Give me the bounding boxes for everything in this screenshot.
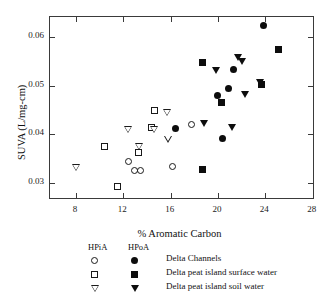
x-tick-top: [171, 17, 172, 22]
legend-row-delta-channels: Delta Channels: [88, 253, 333, 267]
square-open-icon: [91, 270, 98, 280]
square-filled-icon: [131, 270, 138, 280]
data-point-square-filled: [199, 59, 206, 66]
x-axis-title: % Aromatic Carbon: [12, 228, 335, 239]
triangle-down-filled-icon: [131, 284, 139, 294]
y-tick: [50, 183, 55, 184]
data-point-square-filled: [199, 166, 206, 173]
data-point-square-open: [114, 183, 121, 190]
y-tick-right: [308, 134, 313, 135]
legend-row-soil-water: Delta peat island soil water: [88, 281, 333, 295]
x-tick: [123, 193, 124, 198]
x-tick-top: [218, 17, 219, 22]
x-tick-top: [76, 17, 77, 22]
y-tick: [50, 86, 55, 87]
legend-header-hpia: HPiA: [88, 242, 107, 252]
x-tick-label: 20: [204, 204, 230, 214]
y-tick: [50, 134, 55, 135]
data-point-triangle-down-open: [164, 136, 172, 143]
scatter-plot-figure: % Aromatic Carbon SUVA (L/mg-cm) 8121620…: [0, 0, 335, 296]
data-point-square-filled: [218, 99, 225, 106]
data-point-triangle-down-filled: [241, 91, 249, 98]
data-point-square-open: [101, 143, 108, 150]
x-tick-label: 28: [299, 204, 325, 214]
y-tick-label: 0.05: [14, 79, 44, 89]
data-point-circle-filled: [219, 135, 226, 142]
y-tick: [50, 37, 55, 38]
legend-row-surface-water: Delta peat island surface water: [88, 267, 333, 281]
plot-area: [49, 16, 314, 199]
legend-header: HPiA HPoA: [88, 242, 333, 253]
x-tick-top: [313, 17, 314, 22]
data-point-triangle-down-open: [72, 164, 80, 171]
x-tick-label: 24: [251, 204, 277, 214]
data-point-square-open: [151, 107, 158, 114]
y-tick-label: 0.04: [14, 127, 44, 137]
data-point-triangle-down-filled: [238, 58, 246, 65]
legend-label-delta-channels: Delta Channels: [166, 253, 221, 263]
y-tick-right: [308, 37, 313, 38]
circle-filled-icon: [131, 256, 138, 266]
data-point-triangle-down-filled: [256, 79, 264, 86]
x-tick: [313, 193, 314, 198]
data-point-triangle-down-filled: [228, 124, 236, 131]
y-tick-label: 0.06: [14, 30, 44, 40]
data-point-triangle-down-open: [124, 126, 132, 133]
x-tick: [265, 193, 266, 198]
x-tick: [76, 193, 77, 198]
data-point-triangle-down-open: [163, 109, 171, 116]
legend: HPiA HPoA Delta Channels Delta peat isla…: [88, 242, 333, 295]
y-tick-label: 0.03: [14, 176, 44, 186]
y-tick-right: [308, 183, 313, 184]
x-tick-top: [123, 17, 124, 22]
x-tick: [171, 193, 172, 198]
data-point-circle-filled: [230, 66, 237, 73]
x-tick-label: 16: [157, 204, 183, 214]
triangle-down-open-icon: [91, 284, 99, 294]
legend-header-hpoa: HPoA: [128, 242, 149, 252]
y-tick-right: [308, 86, 313, 87]
data-point-triangle-down-open: [135, 143, 143, 150]
data-point-triangle-down-filled: [212, 67, 220, 74]
data-point-triangle-down-open: [150, 126, 158, 133]
x-tick-label: 12: [109, 204, 135, 214]
circle-open-icon: [91, 256, 98, 266]
x-tick-top: [265, 17, 266, 22]
data-point-circle-filled: [172, 125, 179, 132]
legend-label-soil-water: Delta peat island soil water: [166, 281, 264, 291]
legend-label-surface-water: Delta peat island surface water: [166, 267, 277, 277]
x-tick: [218, 193, 219, 198]
data-point-square-filled: [275, 46, 282, 53]
y-axis-title: SUVA (L/mg-cm): [16, 85, 27, 160]
x-tick-label: 8: [62, 204, 88, 214]
data-point-triangle-down-filled: [200, 120, 208, 127]
